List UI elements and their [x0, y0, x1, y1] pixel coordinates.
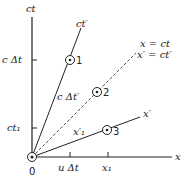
event-3	[103, 126, 112, 135]
ct1-label: ct₁	[7, 122, 21, 133]
origin-event	[28, 153, 37, 162]
event-1	[66, 56, 75, 65]
light-line	[32, 53, 136, 157]
event-2	[93, 88, 102, 97]
light-line-label-2: x′ = ct′	[137, 49, 172, 60]
c-dt-label: c Δt	[2, 54, 23, 65]
event-3-label: 3	[113, 126, 119, 137]
ct-axis-label: ct	[26, 3, 37, 14]
x-axis-label: x	[175, 151, 181, 162]
x-prime-label: x′	[143, 108, 152, 119]
spacetime-diagram: ct x ct′ x′ 0 x = ct x′ = ct′ c Δt ct₁ u…	[0, 0, 187, 185]
u-dt-label: u Δt	[58, 162, 80, 173]
x1-label: x₁	[102, 162, 112, 173]
x-prime-1-label: x′₁	[73, 126, 85, 137]
x-prime-axis	[32, 117, 140, 157]
event-2-label: 2	[103, 87, 109, 98]
event-1-label: 1	[76, 55, 82, 66]
c-dt-prime-label: c Δt′	[57, 91, 80, 102]
light-line-label-1: x = ct	[140, 38, 171, 49]
ct-prime-label: ct′	[76, 18, 89, 29]
origin-label: 0	[29, 166, 35, 177]
